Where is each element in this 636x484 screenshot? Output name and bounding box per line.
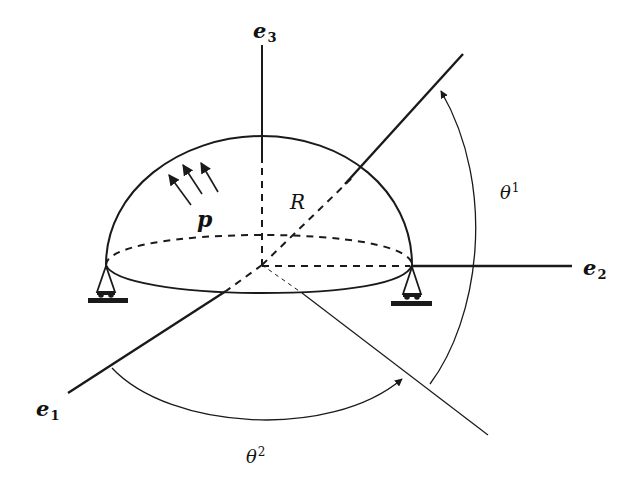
theta1-label: θ1 <box>500 182 519 202</box>
dome-outline <box>106 136 412 265</box>
pressure-label: p <box>197 208 212 230</box>
base-ellipse-back <box>106 235 412 265</box>
radius-label: R <box>290 192 305 212</box>
left-roller-support <box>88 266 128 303</box>
right-roller-support <box>391 267 432 306</box>
e3-label: e3 <box>253 20 276 44</box>
base-ellipse-front <box>106 265 412 293</box>
e1-label: e1 <box>36 398 59 422</box>
pressure-arrows <box>169 163 218 205</box>
theta2-arc <box>112 368 402 420</box>
theta2-label: θ2 <box>246 446 265 466</box>
dome-diagram: e3 e2 e1 R p θ1 θ2 <box>0 0 636 484</box>
e2-label: e2 <box>583 257 606 281</box>
diagram-canvas <box>0 0 636 484</box>
theta1-arc <box>430 91 476 384</box>
projection-line <box>262 265 488 435</box>
e1-axis <box>68 265 262 393</box>
radius-line <box>262 54 463 265</box>
